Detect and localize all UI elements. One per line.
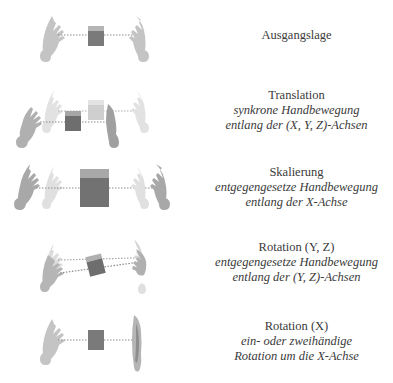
right-hand-icon	[132, 249, 146, 276]
cube-icon	[88, 330, 104, 350]
caption-title: Ausgangslage	[200, 28, 393, 43]
caption-line: entgegengesetze Handbewegung	[200, 180, 393, 195]
right-hand-icon	[129, 16, 149, 62]
caption-title: Rotation (Y, Z)	[200, 240, 393, 255]
cube-icon	[88, 26, 104, 46]
caption-line: ein- oder zweihändige	[200, 334, 393, 349]
caption-line: Rotation um die X-Achse	[200, 349, 393, 364]
illustration-rotation-x	[0, 303, 200, 383]
caption-line: entgegengesetze Handbewegung	[200, 255, 393, 270]
right-hand-icon	[150, 164, 170, 210]
left-hand-icon	[14, 164, 40, 210]
row-skalierung: Skalierung entgegengesetze Handbewegung …	[0, 150, 393, 225]
left-hand-icon	[40, 16, 65, 62]
illustration-translation	[0, 78, 200, 150]
left-hand-icon	[40, 319, 65, 365]
cube-icon	[65, 111, 81, 131]
caption-line: synkrone Handbewegung	[200, 103, 393, 118]
right-hand-icon	[106, 104, 119, 148]
caption-line: entlang der X-Achse	[200, 195, 393, 210]
caption-line: entlang der (X, Y, Z)-Achsen	[200, 118, 393, 133]
caption-title: Skalierung	[200, 165, 393, 180]
caption-skalierung: Skalierung entgegengesetze Handbewegung …	[200, 165, 393, 210]
cube-icon	[85, 253, 105, 276]
row-ausgangslage: Ausgangslage	[0, 0, 393, 78]
row-rotation-yz: Rotation (Y, Z) entgegengesetze Handbewe…	[0, 225, 393, 303]
right-hand-icon	[132, 315, 142, 372]
ghost-right-hand-icon	[131, 90, 149, 133]
cube-icon	[80, 169, 109, 207]
illustration-rotation-yz	[0, 225, 200, 303]
ghost-cube-icon	[88, 100, 104, 120]
caption-ausgangslage: Ausgangslage	[200, 28, 393, 43]
row-rotation-x: Rotation (X) ein- oder zweihändige Rotat…	[0, 303, 393, 383]
caption-title: Rotation (X)	[200, 319, 393, 334]
caption-rotation-x: Rotation (X) ein- oder zweihändige Rotat…	[200, 319, 393, 364]
illustration-ausgangslage	[0, 0, 200, 78]
caption-translation: Translation synkrone Handbewegung entlan…	[200, 88, 393, 133]
illustration-skalierung	[0, 150, 200, 225]
ghost-left-hand-icon	[42, 90, 63, 133]
caption-title: Translation	[200, 88, 393, 103]
caption-line: entlang der (Y, Z)-Achsen	[200, 270, 393, 285]
left-hand-icon	[16, 106, 42, 148]
caption-rotation-yz: Rotation (Y, Z) entgegengesetze Handbewe…	[200, 240, 393, 285]
row-translation: Translation synkrone Handbewegung entlan…	[0, 78, 393, 150]
